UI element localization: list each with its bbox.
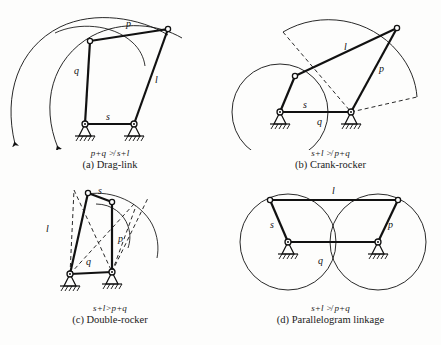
link-l	[134, 29, 168, 124]
formula-text: p+q ≯ s+l	[0, 148, 220, 159]
joint-coupler-rocker	[394, 25, 399, 30]
caption-parallelogram-linkage: s+l ≯ p+q (d) Parallelogram linkage	[220, 303, 441, 326]
caption-crank-rocker: s+l ≯ p+q (b) Crank-rocker	[220, 148, 441, 171]
label-p: p	[378, 63, 384, 74]
panel-crank-rocker: l p s q s+l ≯ p+q (b) Crank-rocker	[220, 0, 441, 180]
joint-coupler-left	[87, 38, 92, 43]
panel-title: (d) Parallelogram linkage	[220, 314, 441, 326]
drag-link-diagram: p q l s	[0, 0, 220, 150]
label-s: s	[106, 111, 110, 122]
label-l: l	[344, 41, 347, 52]
link-q-ground	[70, 272, 112, 274]
label-s: s	[270, 219, 274, 230]
joint-upper-left	[85, 190, 90, 195]
panel-title: (b) Crank-rocker	[220, 159, 441, 171]
panel-title: (c) Double-rocker	[0, 314, 220, 326]
label-q: q	[318, 255, 323, 266]
link-q	[85, 41, 90, 124]
crank-rocker-diagram: l p s q	[220, 0, 441, 150]
rocker-dashed-upper	[283, 32, 351, 112]
label-p: p	[125, 18, 131, 29]
panel-drag-link: p q l s p+q ≯ s+l (a) Drag-link	[0, 0, 220, 180]
formula-text: s+l ≯ p+q	[220, 148, 441, 159]
label-q: q	[74, 65, 79, 76]
crank-circle	[232, 64, 328, 150]
label-l: l	[332, 185, 335, 196]
joint-coupler-left	[267, 197, 272, 202]
joint-upper-right	[109, 199, 114, 204]
label-q: q	[86, 256, 91, 267]
joint-coupler-right	[395, 197, 400, 202]
label-s: s	[98, 185, 102, 196]
label-p: p	[387, 219, 393, 230]
panel-double-rocker: s l p q s+l>p+q (c) Double-rocker	[0, 180, 220, 345]
joint-coupler-right	[165, 26, 170, 31]
label-l: l	[155, 74, 158, 85]
label-s: s	[303, 99, 307, 110]
label-l: l	[46, 223, 49, 234]
rocker-arc-right	[88, 193, 158, 258]
parallelogram-linkage-diagram: l s p q	[220, 180, 441, 308]
panel-title: (a) Drag-link	[0, 159, 220, 171]
link-s-crank	[280, 76, 295, 112]
caption-double-rocker: s+l>p+q (c) Double-rocker	[0, 303, 220, 326]
panel-parallelogram-linkage: l s p q s+l ≯ p+q (d) Parallelogram link…	[220, 180, 441, 345]
caption-drag-link: p+q ≯ s+l (a) Drag-link	[0, 148, 220, 171]
figure-sheet: p q l s p+q ≯ s+l (a) Drag-link	[0, 0, 441, 345]
joint-crank-coupler	[292, 73, 297, 78]
rocker-arc-outer	[283, 20, 417, 97]
formula-text: s+l>p+q	[0, 303, 220, 314]
label-q: q	[317, 116, 322, 127]
rocker-dashed-lower	[351, 97, 417, 112]
link-p-rocker	[351, 28, 397, 112]
dashed-link-right-2	[112, 206, 136, 272]
label-p: p	[117, 233, 123, 244]
formula-text: s+l ≯ p+q	[220, 303, 441, 314]
double-rocker-diagram: s l p q	[0, 180, 220, 308]
